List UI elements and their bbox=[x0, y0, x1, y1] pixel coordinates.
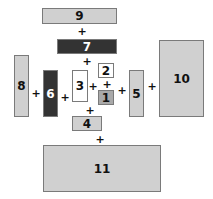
box-5: 5 bbox=[129, 70, 144, 117]
plus-operator: + bbox=[117, 85, 126, 96]
box-4: 4 bbox=[72, 116, 102, 131]
plus-operator: + bbox=[102, 79, 111, 90]
plus-operator: + bbox=[82, 56, 91, 67]
box-label: 10 bbox=[173, 73, 190, 85]
plus-operator: + bbox=[95, 134, 104, 145]
plus-operator: + bbox=[60, 92, 69, 103]
box-label: 9 bbox=[75, 10, 83, 22]
box-3: 3 bbox=[72, 70, 88, 102]
box-label: 6 bbox=[46, 88, 54, 100]
box-label: 3 bbox=[76, 80, 84, 92]
box-1: 1 bbox=[98, 90, 114, 105]
box-7: 7 bbox=[57, 39, 117, 54]
box-11: 11 bbox=[43, 145, 161, 192]
box-2: 2 bbox=[98, 63, 114, 78]
box-label: 2 bbox=[102, 65, 110, 77]
box-label: 5 bbox=[132, 88, 140, 100]
box-label: 8 bbox=[17, 80, 25, 92]
box-10: 10 bbox=[159, 40, 204, 117]
box-label: 7 bbox=[83, 41, 91, 53]
box-label: 1 bbox=[102, 92, 110, 104]
plus-operator: + bbox=[77, 26, 86, 37]
box-6: 6 bbox=[43, 70, 58, 117]
diagram-canvas: 1234567891011++++++++++ bbox=[0, 0, 213, 199]
box-label: 4 bbox=[83, 118, 91, 130]
plus-operator: + bbox=[88, 81, 97, 92]
plus-operator: + bbox=[85, 105, 94, 116]
box-9: 9 bbox=[42, 8, 117, 24]
box-8: 8 bbox=[14, 55, 29, 117]
box-label: 11 bbox=[94, 163, 111, 175]
plus-operator: + bbox=[31, 88, 40, 99]
plus-operator: + bbox=[147, 81, 156, 92]
